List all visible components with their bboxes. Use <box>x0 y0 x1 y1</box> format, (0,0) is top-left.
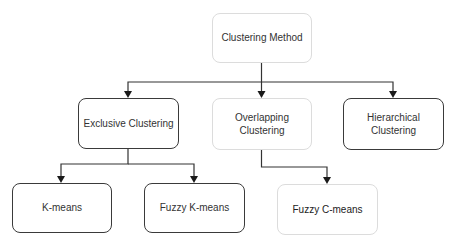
node-overlapping-clustering: Overlapping Clustering <box>212 98 312 150</box>
arrow-icon <box>57 176 65 183</box>
edge-root-hierarchical <box>262 82 394 92</box>
arrow-icon <box>124 91 132 98</box>
arrow-icon <box>190 176 198 183</box>
node-fuzzy-c-means: Fuzzy C-means <box>277 184 378 235</box>
edge-exclusive-fuzzykmeans <box>128 164 194 177</box>
node-clustering-method: Clustering Method <box>212 13 312 63</box>
node-label: Clustering Method <box>221 31 302 45</box>
node-exclusive-clustering: Exclusive Clustering <box>78 98 179 149</box>
edge-overlapping-fuzzycmeans <box>262 150 328 178</box>
node-hierarchical-clustering: Hierarchical Clustering <box>343 98 444 150</box>
arrow-icon <box>389 91 397 98</box>
node-k-means: K-means <box>12 183 112 233</box>
arrow-icon <box>258 91 266 98</box>
edge-exclusive-kmeans <box>61 148 128 177</box>
edge-root-exclusive <box>128 82 262 92</box>
node-label: K-means <box>42 201 82 215</box>
node-label-line2: Clustering <box>239 124 284 138</box>
node-label: Exclusive Clustering <box>83 117 173 131</box>
node-fuzzy-k-means: Fuzzy K-means <box>144 183 245 233</box>
node-label-line1: Overlapping <box>235 111 289 125</box>
node-label: Fuzzy K-means <box>160 201 229 215</box>
node-label-line1: Hierarchical <box>367 111 420 125</box>
node-label-line2: Clustering <box>371 124 416 138</box>
arrow-icon <box>323 177 331 184</box>
node-label: Fuzzy C-means <box>292 203 362 217</box>
